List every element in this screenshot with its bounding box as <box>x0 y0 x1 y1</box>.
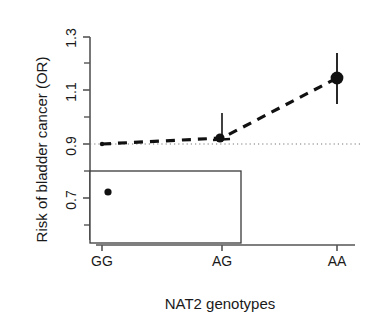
legend-box <box>90 171 241 243</box>
data-point-ag-ever-smokers <box>215 133 224 142</box>
data-point-aa-ever-smokers <box>331 72 344 85</box>
data-point-ag-never-smokers <box>213 139 230 140</box>
plot-canvas <box>0 0 371 327</box>
data-point-gg-ever-smokers <box>100 142 104 146</box>
chart-figure: Risk of bladder cancer (OR) NAT2 genotyp… <box>0 0 371 327</box>
legend-marker-ever-smokers <box>104 188 111 195</box>
